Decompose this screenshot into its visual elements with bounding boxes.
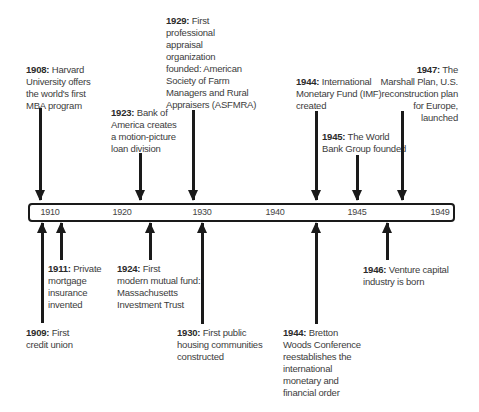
- event-1909-credit-union: 1909: First credit union: [26, 327, 73, 351]
- arrow-up-1909: [41, 223, 44, 323]
- arrow-up-1924: [149, 223, 152, 260]
- arrow-up-1930: [201, 223, 204, 324]
- tick-1945: 1945: [347, 207, 366, 217]
- arrow-down-1908: [39, 108, 42, 200]
- event-1923-bank-of-america: 1923: Bank of America creates a motion-p…: [111, 107, 177, 155]
- event-1945-world-bank: 1945: The World Bank Group founded: [322, 131, 406, 155]
- event-1930-public-housing: 1930: First public housing communities c…: [177, 327, 262, 363]
- arrow-down-1947: [401, 111, 404, 200]
- arrow-up-1911: [60, 223, 63, 260]
- event-1944-imf: 1944: International Monetary Fund (IMF) …: [296, 76, 381, 112]
- tick-1949: 1949: [430, 207, 449, 217]
- event-1911-mortgage-insurance: 1911: Private mortgage insurance invente…: [48, 263, 101, 311]
- tick-1920: 1920: [112, 207, 131, 217]
- event-1946-venture-capital: 1946: Venture capital industry is born: [363, 264, 449, 288]
- event-year: 1908:: [26, 64, 49, 75]
- tick-1940: 1940: [265, 207, 284, 217]
- event-1947-marshall-plan: 1947: The Marshall Plan, U.S. reconstruc…: [374, 64, 458, 124]
- arrow-down-1945: [356, 155, 359, 200]
- tick-1910: 1910: [40, 207, 59, 217]
- event-1944-bretton-woods: 1944: Bretton Woods Conference reestabli…: [283, 327, 361, 399]
- arrow-up-1946: [386, 223, 389, 260]
- event-1924-mutual-fund: 1924: First modern mutual fund: Massachu…: [117, 263, 200, 311]
- timeline-bar: [28, 203, 455, 222]
- event-1908-harvard-mba: 1908: Harvard University offers the worl…: [26, 64, 91, 112]
- arrow-up-1944-bretton-woods: [315, 223, 318, 324]
- arrow-down-1944-imf: [315, 111, 318, 200]
- tick-1930: 1930: [192, 207, 211, 217]
- arrow-down-1929: [192, 110, 195, 200]
- arrow-down-1923: [139, 153, 142, 200]
- event-1929-asfmra: 1929: First professional appraisal organ…: [166, 15, 256, 111]
- timeline-diagram: 1908: Harvard University offers the worl…: [0, 0, 479, 412]
